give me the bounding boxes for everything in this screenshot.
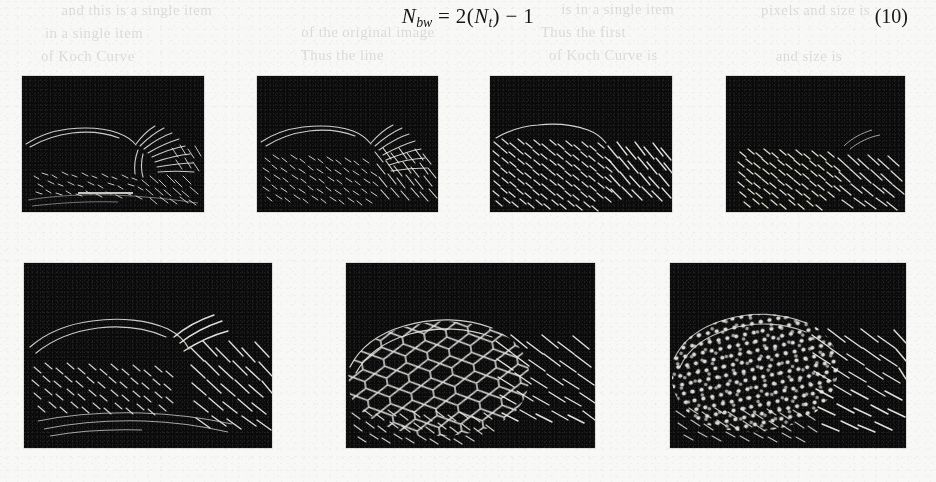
- figure-panel-top-2: [257, 76, 438, 212]
- edge-map-top-4: [726, 76, 905, 212]
- equation-row: Nbw = 2(Nt) − 1 (10): [0, 4, 936, 40]
- scanned-page: and this is a single item in a single it…: [0, 0, 936, 482]
- edge-map-bottom-1: [24, 263, 272, 448]
- figure-panel-bottom-3: [670, 263, 906, 448]
- equation-number: (10): [875, 5, 908, 28]
- figure-panel-top-4: [726, 76, 905, 212]
- panel-scalebar: [78, 192, 133, 194]
- edge-map-top-2: [257, 76, 438, 212]
- equation-lhs-subscript: bw: [416, 15, 432, 30]
- figure-edge-detection-grid: [0, 0, 936, 482]
- display-equation: Nbw = 2(Nt) − 1: [0, 4, 936, 31]
- equation-operator: = 2(: [432, 4, 474, 28]
- figure-panel-bottom-2: [346, 263, 595, 448]
- equation-tail: ) − 1: [492, 4, 534, 28]
- equation-lhs-variable: N: [402, 4, 416, 28]
- pineapple-dense-texture: [670, 303, 860, 448]
- figure-panel-top-1: [22, 76, 204, 212]
- edge-map-top-3: [490, 76, 672, 212]
- figure-panel-bottom-1: [24, 263, 272, 448]
- figure-panel-top-3: [490, 76, 672, 212]
- pineapple-scale-texture: [346, 313, 546, 448]
- edge-map-bottom-3: [670, 263, 906, 448]
- equation-rhs-variable: N: [474, 4, 488, 28]
- edge-map-bottom-2: [346, 263, 595, 448]
